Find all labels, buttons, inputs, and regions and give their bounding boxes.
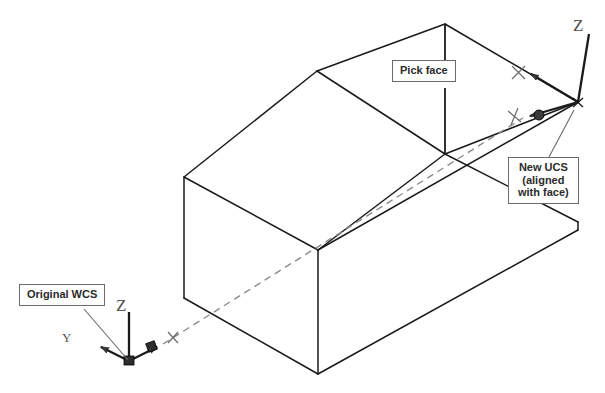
edge-mid-to-face-right: [445, 102, 578, 154]
callout-leaders: [84, 110, 574, 360]
original-wcs-leader: [84, 309, 128, 360]
wcs-y-letter: Y: [62, 330, 72, 345]
ucs-z-letter: Z: [573, 16, 583, 35]
diagram-canvas: Y Z Z Original: [0, 0, 605, 393]
wcs-z-letter: Z: [116, 296, 126, 315]
wcs-x-tick: [168, 332, 178, 343]
ucs-z-axis: [578, 34, 589, 102]
new-ucs-axis-icon: Z: [508, 16, 589, 125]
callout-original-wcs: Original WCS: [19, 284, 105, 306]
edge-top-face-right: [318, 154, 445, 250]
callout-new-ucs: New UCS (aligned with face): [508, 157, 579, 204]
ucs-y-circle-marker: [534, 110, 544, 120]
wcs-axis-icon: Y Z: [62, 296, 178, 365]
edge-front-left-slope: [184, 71, 317, 177]
edge-bottom-right-long: [318, 230, 578, 374]
edge-top-face-left: [184, 177, 318, 250]
edge-bottom-front-left: [184, 298, 318, 374]
ucs-x-axis: [531, 74, 578, 102]
callout-pick-face: Pick face: [392, 60, 456, 82]
ucs-y-tick: [508, 108, 521, 125]
edge-slope-face-lower: [317, 71, 445, 154]
